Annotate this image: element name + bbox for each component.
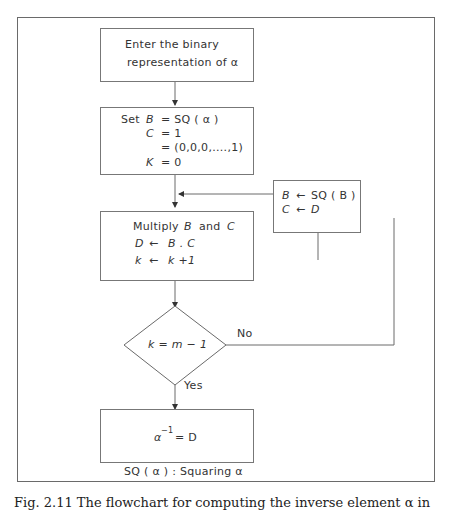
input-line-2: representation of α bbox=[127, 56, 238, 70]
update-c-variable: C bbox=[282, 203, 290, 217]
multiply-box: Multiply B and C D ← B . C k ← k +1 bbox=[100, 211, 254, 281]
result-exponent: −1 bbox=[161, 424, 173, 438]
figure-caption: Fig. 2.11 The flowchart for computing th… bbox=[14, 495, 430, 510]
multiply-and: and bbox=[199, 220, 221, 234]
update-b-arrow: ← bbox=[296, 189, 306, 203]
update-c-expression: D bbox=[311, 203, 320, 217]
update-b-expression: SQ ( B ) bbox=[311, 189, 356, 203]
legend-text: SQ ( α ) : Squaring α bbox=[124, 465, 243, 479]
input-line-1: Enter the binary bbox=[125, 38, 219, 52]
d-arrow: ← bbox=[149, 237, 159, 251]
update-c-arrow: ← bbox=[296, 203, 306, 217]
b-expression: = SQ ( α ) bbox=[161, 113, 219, 127]
init-box: Set B = SQ ( α ) C = 1 = (0,0,0,....,1) … bbox=[100, 107, 254, 175]
c-variable: C bbox=[146, 127, 154, 141]
result-box: α −1 = D bbox=[100, 409, 254, 463]
decision-yes-label: Yes bbox=[184, 379, 203, 393]
decision-no-label: No bbox=[237, 327, 253, 341]
multiply-word: Multiply bbox=[133, 220, 179, 234]
d-expression: B . C bbox=[168, 237, 195, 251]
decision-condition: k = m − 1 bbox=[148, 338, 207, 352]
multiply-b: B bbox=[184, 220, 192, 234]
k-increment-variable: k bbox=[135, 254, 142, 268]
d-variable: D bbox=[135, 237, 144, 251]
c-vector: = (0,0,0,....,1) bbox=[161, 141, 243, 155]
k-expression: = 0 bbox=[161, 156, 182, 170]
input-box: Enter the binary representation of α bbox=[100, 28, 254, 82]
multiply-c: C bbox=[227, 220, 235, 234]
b-variable: B bbox=[146, 113, 154, 127]
k-increment-arrow: ← bbox=[149, 254, 159, 268]
k-increment-expression: k +1 bbox=[168, 254, 195, 268]
c-expression: = 1 bbox=[161, 127, 182, 141]
update-b-variable: B bbox=[282, 189, 290, 203]
result-expression: = D bbox=[175, 431, 197, 445]
set-label: Set bbox=[121, 113, 140, 127]
k-variable: K bbox=[146, 156, 154, 170]
update-box: B ← SQ ( B ) C ← D bbox=[273, 180, 361, 233]
